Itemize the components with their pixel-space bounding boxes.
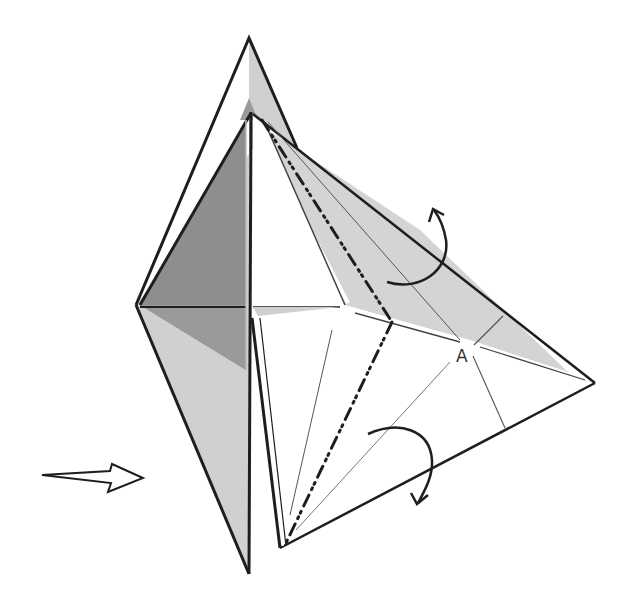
diagram-canvas: A [0,0,633,591]
center-edge [249,112,251,574]
right-flap [252,114,595,548]
point-label-a: A [456,346,468,366]
origami-diagram: A [0,0,633,591]
push-arrow [42,464,143,492]
